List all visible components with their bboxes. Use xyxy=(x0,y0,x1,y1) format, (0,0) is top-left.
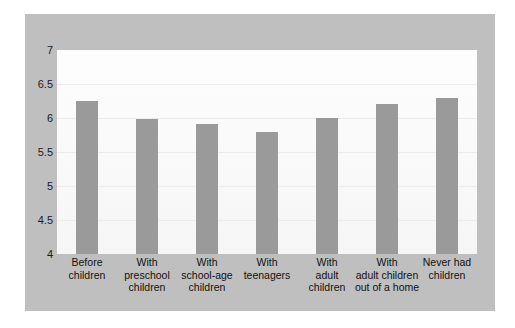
bar xyxy=(256,132,278,254)
plot-area xyxy=(57,50,477,254)
bar xyxy=(196,124,218,254)
x-axis-category-label: Never hadchildren xyxy=(407,256,487,281)
x-axis-label-line: children xyxy=(167,281,247,294)
chart-figure: 76.565.554.54 BeforechildrenWithpreschoo… xyxy=(0,0,515,328)
y-axis-tick-label: 6 xyxy=(7,113,53,124)
x-axis-label-line: Never had xyxy=(407,256,487,269)
gridline xyxy=(57,118,477,119)
y-axis-tick-label: 4.5 xyxy=(7,215,53,226)
bar xyxy=(376,104,398,254)
y-axis-tick-label: 5.5 xyxy=(7,147,53,158)
gridline xyxy=(57,84,477,85)
y-axis-tick-label: 6.5 xyxy=(7,79,53,90)
bar xyxy=(136,119,158,254)
x-axis-label-line: children xyxy=(407,269,487,282)
bar xyxy=(316,118,338,254)
x-axis-category-labels: BeforechildrenWithpreschoolchildrenWiths… xyxy=(57,256,477,310)
bar xyxy=(76,101,98,254)
x-axis-label-line: out of a home xyxy=(347,281,427,294)
bar xyxy=(436,98,458,254)
y-axis-tick-label: 5 xyxy=(7,181,53,192)
y-axis: 76.565.554.54 xyxy=(5,50,53,254)
y-axis-tick-label: 7 xyxy=(7,45,53,56)
